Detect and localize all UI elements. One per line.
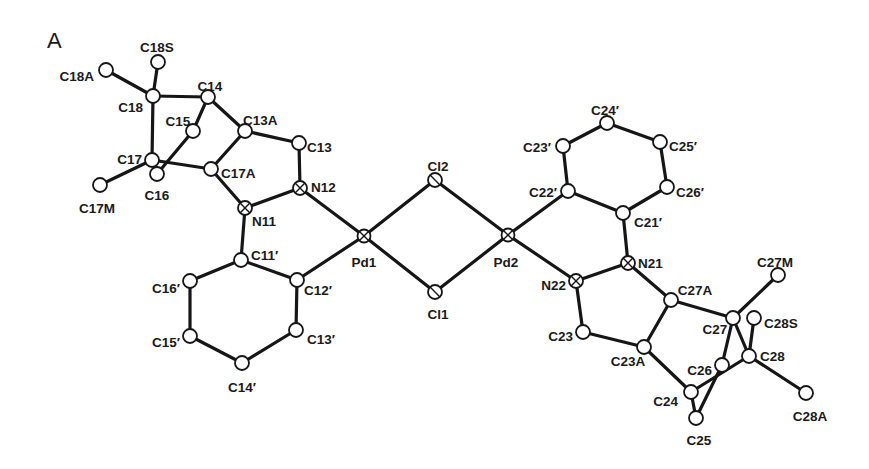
atom-pd2 [502,229,515,242]
atom-label-cl2: Cl2 [427,159,448,174]
molecular-structure-figure: A C18SC18AC18C14C15C13AC17C16C17AC17MC13… [0,0,869,469]
atom-label-c14: C14 [198,79,223,94]
atom-c13p [289,323,303,337]
atom-label-c12p: C12′ [304,283,332,298]
bond-n12-pd1 [300,188,364,236]
atom-c26p [660,180,674,194]
atom-label-c21p: C21′ [634,215,662,230]
atom-n12 [293,181,307,195]
atom-c23a [637,340,651,354]
atom-label-pd1: Pd1 [352,255,377,270]
atom-c13 [292,136,306,150]
atom-label-c18: C18 [118,100,143,115]
atom-cl2 [428,173,442,187]
atom-c27 [726,311,740,325]
atom-c27m [771,268,785,282]
atom-label-c17a: C17A [221,166,256,181]
atom-label-c15: C15 [166,114,191,129]
atom-c24p [600,116,614,130]
bond-pd1-cl2 [364,180,435,236]
atom-label-c13a: C13A [243,113,278,128]
atom-c28a [799,386,813,400]
atom-c23p [556,139,570,153]
bond-c13p-c14p [242,330,296,363]
atom-label-c16p: C16′ [152,281,180,296]
bond-c23a-c24 [644,347,691,392]
atom-label-c28a: C28A [793,409,828,424]
atom-label-c23p: C23′ [523,140,551,155]
atom-label-c25: C25 [687,433,712,448]
atom-c14p [235,356,249,370]
atom-n22 [569,274,583,288]
atom-label-c13p: C13′ [307,332,335,347]
bond-c23-c23a [583,332,644,347]
bond-c15-c16 [157,131,193,174]
atom-label-c18a: C18A [59,69,94,84]
atom-label-n21: N21 [638,256,663,271]
bond-c18a-c18 [106,70,153,96]
atom-label-n12: N12 [311,180,336,195]
atom-label-cl1: Cl1 [427,307,449,322]
atom-c15p [183,329,197,343]
atom-label-c27: C27 [703,322,728,337]
atom-cl1 [428,285,442,299]
atom-c26 [715,358,729,372]
ortep-diagram: A C18SC18AC18C14C15C13AC17C16C17AC17MC13… [0,0,869,469]
atom-label-c17m: C17M [79,201,115,216]
atom-label-c23: C23 [548,329,573,344]
bond-c11p-c12p [241,260,297,280]
atom-label-c13: C13 [307,140,332,155]
atom-c12p [290,273,304,287]
atom-label-c16: C16 [145,188,170,203]
bond-cl2-pd2 [435,180,508,235]
bond-c16p-c11p [190,260,241,281]
atom-c28 [742,349,756,363]
atom-label-pd2: Pd2 [494,255,519,270]
atom-label-n11: N11 [252,214,277,229]
atom-label-c23a: C23A [611,354,646,369]
atom-c24 [684,385,698,399]
panel-label: A [47,28,62,53]
atom-c18a [99,63,113,77]
atom-label-c17: C17 [117,152,142,167]
bond-n21-n22 [576,263,628,281]
atom-label-c11p: C11′ [251,248,278,263]
atom-c18s [151,55,165,69]
bond-c13a-c13 [245,131,299,143]
atom-label-c28: C28 [760,349,785,364]
atom-label-c25p: C25′ [669,139,697,154]
atom-c28s [747,311,761,325]
atom-label-c22p: C22′ [529,185,557,200]
atom-c17m [93,178,107,192]
bond-c14p-c15p [190,336,242,363]
atom-c25 [689,411,703,425]
atom-c16p [183,274,197,288]
atom-n11 [238,201,252,215]
atom-label-c24p: C24′ [591,103,619,118]
atom-c25p [653,135,667,149]
bond-n12-n11 [245,188,300,208]
atom-label-c27a: C27A [678,283,713,298]
atom-label-c24: C24 [653,394,678,409]
atom-label-c26: C26 [687,363,712,378]
atom-label-c15p: C15′ [152,335,180,350]
atom-c21p [616,206,630,220]
atom-c11p [234,253,248,267]
atom-c22p [561,184,575,198]
bond-c24p-c25p [607,123,660,142]
bond-c21p-c22p [568,191,623,213]
atom-label-c28s: C28S [764,316,798,331]
atom-pd1 [358,230,371,243]
atom-c27a [664,293,678,307]
atom-label-c26p: C26′ [676,185,704,200]
bond-c27a-c27 [671,300,733,318]
atom-n21 [621,256,635,270]
atom-c17 [145,153,159,167]
atom-label-c18s: C18S [140,40,174,55]
bond-c27a-c23a [644,300,671,347]
atom-label-c27m: C27M [757,255,793,270]
bond-c18-c14 [153,96,208,97]
atom-c16 [150,167,164,181]
atom-c18 [146,89,160,103]
atom-label-c14p: C14′ [228,380,256,395]
